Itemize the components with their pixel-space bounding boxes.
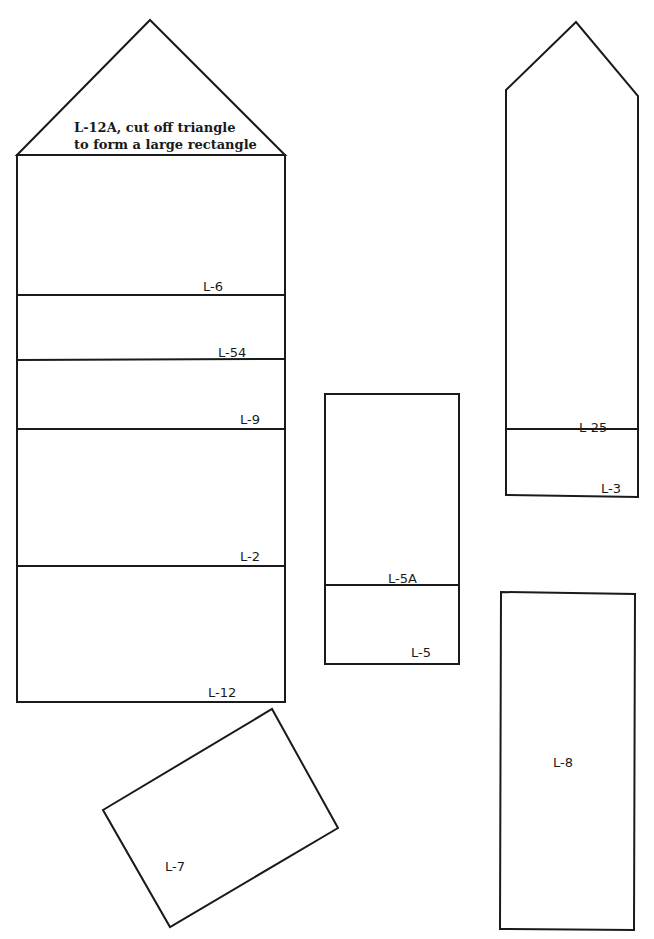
rectangle-l7	[103, 709, 338, 927]
pattern-diagram: L-12A, cut off triangle to form a large …	[0, 0, 654, 939]
label-l5a: L-5A	[388, 571, 417, 586]
label-l54: L-54	[218, 345, 246, 360]
piece-l8: L-8	[500, 592, 635, 930]
piece-l3: L-25 L-3	[506, 22, 638, 497]
rectangle-l5	[325, 394, 459, 664]
piece-l5: L-5A L-5	[325, 394, 459, 664]
piece-l12: L-12A, cut off triangle to form a large …	[17, 20, 285, 702]
label-l6: L-6	[203, 279, 223, 294]
label-l7: L-7	[165, 859, 185, 874]
l12a-note-line2: to form a large rectangle	[74, 137, 257, 152]
label-l3: L-3	[601, 481, 621, 496]
piece-l7: L-7	[103, 709, 338, 927]
label-l8: L-8	[553, 755, 573, 770]
l12a-note-line1: L-12A, cut off triangle	[74, 120, 236, 135]
label-l5: L-5	[411, 645, 431, 660]
label-l2: L-2	[240, 549, 260, 564]
label-l25: L-25	[579, 420, 607, 435]
label-l9: L-9	[240, 412, 260, 427]
label-l12: L-12	[208, 685, 236, 700]
pointed-piece-l3	[506, 22, 638, 497]
